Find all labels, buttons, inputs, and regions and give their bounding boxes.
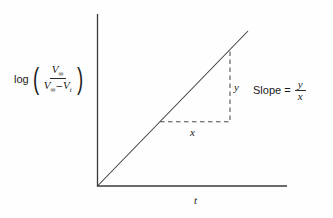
- minus-operator: –: [55, 80, 63, 91]
- log-function-text: log: [14, 74, 29, 85]
- data-line: [98, 31, 249, 186]
- slope-fraction: y x: [295, 79, 306, 102]
- fraction-numerator: V∞: [50, 64, 66, 79]
- rise-label: y: [234, 82, 239, 93]
- semilog-slope-figure: log ( V∞ V∞–Vt ) x y t Slope = y x: [0, 0, 333, 218]
- slope-text: Slope =: [253, 85, 291, 96]
- y-axis-label: log ( V∞ V∞–Vt ): [14, 64, 85, 94]
- open-paren: (: [33, 67, 39, 92]
- x-axis-label: t: [194, 195, 197, 206]
- slope-denominator: x: [295, 91, 306, 102]
- numerator-subscript: ∞: [59, 70, 64, 77]
- y-axis-fraction: V∞ V∞–Vt: [42, 64, 74, 94]
- plot-canvas: [0, 0, 333, 218]
- denominator-subscript-2: t: [70, 86, 72, 94]
- denominator-variable-2: V: [63, 79, 70, 91]
- run-label: x: [190, 127, 195, 138]
- numerator-variable: V: [52, 63, 59, 75]
- fraction-denominator: V∞–Vt: [42, 79, 74, 94]
- slope-annotation: Slope = y x: [253, 79, 307, 102]
- close-paren: ): [77, 67, 83, 92]
